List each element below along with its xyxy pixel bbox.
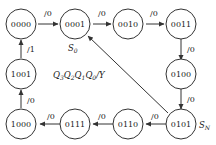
legend-label: Q3Q2Q1Q0/Y — [53, 70, 106, 81]
state-1000: 1000 — [6, 109, 36, 139]
svg-text:1001: 1001 — [11, 70, 31, 79]
edge-label-0101-0110: /0 — [151, 112, 159, 121]
edge-label-0111-1000: /0 — [47, 112, 55, 121]
state-1001: 1001 — [6, 59, 36, 89]
edge-label-0100-0101: /0 — [187, 95, 195, 104]
svg-text:0010: 0010 — [118, 20, 138, 29]
edge-label-0001-0010: /0 — [98, 9, 106, 18]
svg-text:0000: 0000 — [11, 20, 31, 29]
state-0011: 0011 — [166, 9, 196, 39]
state-0101: 0101 — [166, 109, 196, 139]
state-diagram: /0 /0 /0 /0 /0 /0 /0 /0 /0 /1 0000 0001 … — [0, 0, 216, 145]
svg-text:1000: 1000 — [11, 120, 31, 129]
state-0001: 0001 — [60, 9, 90, 39]
edge-label-0011-0100: /0 — [187, 45, 195, 54]
marker-s0: S0 — [68, 43, 78, 54]
svg-text:0111: 0111 — [65, 120, 85, 129]
svg-text:0011: 0011 — [171, 20, 191, 29]
svg-text:0100: 0100 — [171, 70, 191, 79]
edge-label-0110-0111: /0 — [98, 112, 106, 121]
edge-label-0010-0011: /0 — [150, 9, 158, 18]
svg-text:0001: 0001 — [65, 20, 85, 29]
state-0110: 0110 — [113, 109, 143, 139]
edge-label-1000-1001: /0 — [27, 96, 35, 105]
edge-label-0000-0001: /0 — [44, 9, 52, 18]
svg-text:0110: 0110 — [118, 120, 138, 129]
state-0100: 0100 — [166, 59, 196, 89]
edge-label-1001-0000: /1 — [27, 45, 35, 54]
state-0010: 0010 — [113, 9, 143, 39]
marker-sn: SN — [199, 120, 211, 131]
state-0000: 0000 — [6, 9, 36, 39]
svg-text:0101: 0101 — [171, 120, 191, 129]
state-0111: 0111 — [60, 109, 90, 139]
